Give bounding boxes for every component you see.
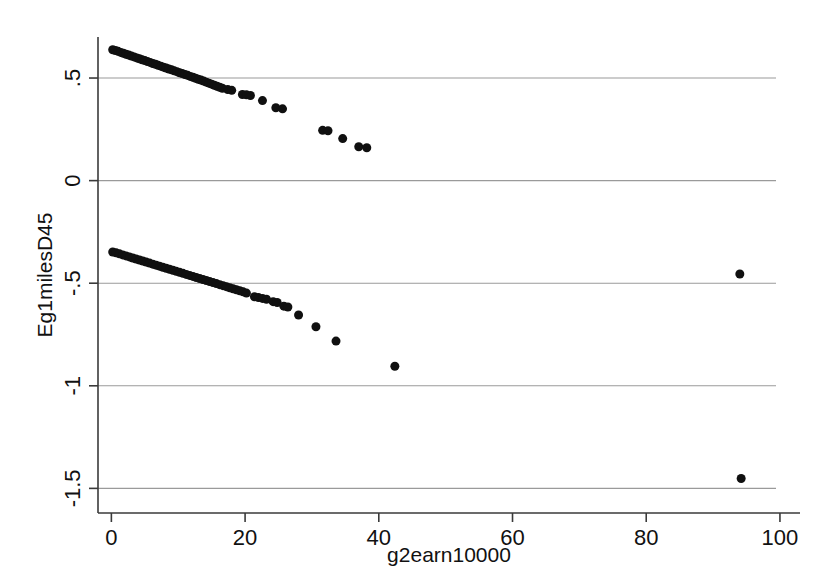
data-point bbox=[338, 134, 347, 143]
data-point bbox=[332, 337, 341, 346]
scatter-plot-figure: .50-.5-1-1.5 020406080100 g2earn10000 Eg… bbox=[0, 0, 819, 574]
x-tick-label: 100 bbox=[762, 525, 799, 550]
data-point bbox=[283, 303, 292, 312]
x-axis-title: g2earn10000 bbox=[387, 543, 511, 566]
y-tick-label: -.5 bbox=[60, 270, 85, 296]
x-tick-label: 0 bbox=[105, 525, 117, 550]
data-point bbox=[242, 289, 251, 298]
data-point bbox=[354, 142, 363, 151]
data-point bbox=[258, 96, 267, 105]
y-tick-label: 0 bbox=[60, 174, 85, 186]
y-tick-label: -1.5 bbox=[60, 469, 85, 507]
data-point bbox=[278, 104, 287, 113]
data-point bbox=[737, 474, 746, 483]
data-point bbox=[227, 86, 236, 95]
data-point bbox=[735, 269, 744, 278]
y-tick-label: .5 bbox=[60, 69, 85, 87]
data-point bbox=[311, 322, 320, 331]
data-point bbox=[390, 362, 399, 371]
data-point bbox=[294, 311, 303, 320]
x-tick-label: 20 bbox=[233, 525, 257, 550]
data-point bbox=[362, 143, 371, 152]
data-point bbox=[323, 126, 332, 135]
y-tick-label: -1 bbox=[60, 376, 85, 396]
y-axis-title: Eg1milesD45 bbox=[33, 213, 56, 338]
x-tick-label: 80 bbox=[634, 525, 658, 550]
chart-canvas: .50-.5-1-1.5 020406080100 g2earn10000 Eg… bbox=[0, 0, 819, 574]
data-point bbox=[246, 91, 255, 100]
